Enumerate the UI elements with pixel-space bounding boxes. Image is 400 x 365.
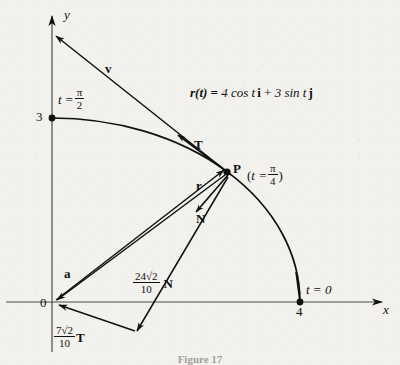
label-t-quarter-pi: (t =π4) [247, 162, 283, 188]
t-half-pi-prefix: t = [58, 92, 74, 107]
label-vector-r: r [196, 179, 202, 192]
label-vector-T: T [194, 138, 203, 151]
normal-component-unit: N [164, 276, 173, 291]
normal-component-numerator: 24√2 [133, 270, 160, 283]
t-quarter-pi-fraction: π4 [268, 162, 278, 188]
label-normal-component: 24√210N [132, 270, 173, 296]
figure-caption: Figure 17 [0, 353, 400, 365]
equation-plus: + [264, 85, 271, 100]
y-axis-label: y [64, 8, 70, 21]
equation-i-hat: i [257, 85, 261, 100]
t-quarter-pi-close: ) [279, 168, 283, 183]
label-vector-v: v [105, 62, 112, 75]
t-quarter-pi-denominator: 4 [268, 175, 278, 187]
label-tangent-component: 7√210T [53, 324, 85, 350]
tangent-component-denominator: 10 [54, 337, 75, 349]
t-half-pi-fraction: π2 [75, 86, 85, 112]
vector-normal-component [137, 177, 228, 331]
point-t-half-pi [49, 115, 56, 122]
normal-component-denominator: 10 [133, 283, 160, 295]
tangent-component-fraction: 7√210 [54, 324, 75, 350]
tangent-component-numerator: 7√2 [54, 324, 75, 337]
label-vector-N: N [196, 212, 205, 225]
label-vector-a: a [64, 267, 71, 280]
y-tick-label-3: 3 [36, 110, 43, 123]
equation-x-component: 4 cos t [221, 85, 255, 100]
label-point-P: P [233, 162, 241, 175]
t-quarter-pi-numerator: π [268, 162, 278, 175]
x-tick-label-4: 4 [296, 305, 303, 318]
equation-y-component: 3 sin t [275, 85, 307, 100]
tangent-component-unit: T [76, 330, 85, 345]
label-t-half-pi: t =π2 [58, 86, 85, 112]
normal-component-fraction: 24√210 [133, 270, 160, 296]
t-half-pi-denominator: 2 [75, 99, 85, 111]
x-axis-label: x [383, 303, 389, 316]
label-t-zero: t = 0 [306, 283, 331, 296]
equation-lhs: r(t) = [190, 85, 218, 100]
equation-r-of-t: r(t) = 4 cos ti + 3 sin tj [190, 86, 313, 99]
equation-j-hat: j [308, 85, 312, 100]
origin-label: 0 [40, 296, 47, 309]
t-half-pi-numerator: π [75, 86, 85, 99]
t-quarter-pi-prefix: t = [251, 168, 267, 183]
